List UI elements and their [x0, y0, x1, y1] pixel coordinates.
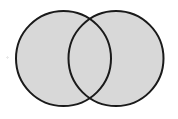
venn-diagram	[0, 0, 178, 119]
circle-fills	[16, 11, 164, 106]
figure-canvas	[0, 0, 178, 119]
scan-speck-artifact	[6, 56, 9, 59]
